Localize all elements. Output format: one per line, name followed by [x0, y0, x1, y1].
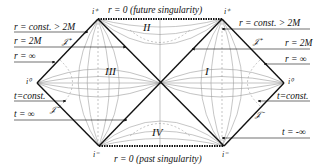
i-minus-left: i⁻	[93, 150, 100, 159]
left-r-const-label: r = const. > 2M	[14, 22, 76, 32]
left-t-const-label: t=const.	[14, 91, 45, 101]
i-plus-right: i⁺	[224, 7, 231, 16]
region-II: II	[142, 21, 152, 33]
region-III: III	[104, 65, 117, 77]
left-t-inf-label: t = ∞	[14, 109, 35, 119]
i-plus-left: i⁺	[92, 7, 99, 16]
scri-plus-left: 𝒥⁺	[61, 37, 72, 46]
scri-minus-left: 𝒥⁻	[49, 105, 60, 114]
region-IV: IV	[151, 126, 164, 138]
future-singularity-label: r = 0 (future singularity)	[108, 5, 202, 16]
region-I: I	[204, 65, 210, 77]
past-singularity-label: r = 0 (past singularity)	[114, 154, 202, 165]
left-r-inf-label: r = ∞	[14, 51, 36, 61]
scri-plus-right: 𝒥⁺	[252, 37, 263, 46]
i-zero-right: i⁰	[288, 77, 295, 86]
scri-minus-right: 𝒥⁻	[254, 110, 265, 119]
right-t-minus-inf-label: t = -∞	[282, 127, 306, 137]
right-r-const-label: r = const. > 2M	[239, 18, 301, 28]
i-minus-right: i⁻	[222, 150, 229, 159]
penrose-diagram: r = 0 (future singularity) r = 0 (past s…	[0, 0, 321, 166]
left-r-2m-label: r = 2M	[14, 36, 43, 46]
right-r-inf-label: r = ∞	[285, 54, 307, 64]
right-r-2m-label: r = 2M	[285, 38, 314, 48]
i-zero-left: i⁰	[26, 77, 33, 86]
right-t-const-label: t=const.	[277, 91, 308, 101]
